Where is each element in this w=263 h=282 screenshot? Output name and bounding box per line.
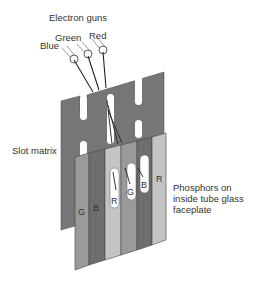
red-gun-label: Red (89, 30, 106, 41)
blue-gun-icon (70, 55, 78, 63)
stripe-letter-r2: R (156, 174, 163, 184)
green-gun-label: Green (55, 32, 81, 43)
crt-slot-mask-diagram: Electron guns Blue Green Red Slot matrix… (0, 0, 263, 282)
stripe-letter-b1: B (93, 203, 99, 213)
phosphor-label-line-1: Phosphors on (173, 182, 253, 193)
electron-guns-label: Electron guns (49, 12, 107, 23)
stripe-letter-b2: B (141, 180, 147, 190)
stripe-letter-g2: G (127, 187, 134, 197)
phosphor-label-line-2: inside tube glass (173, 193, 253, 204)
slot-matrix-label: Slot matrix (12, 145, 57, 156)
phosphor-label-line-3: faceplate (173, 204, 253, 215)
stripe-letter-r1: R (111, 196, 118, 206)
phosphor-label: Phosphors on inside tube glass faceplate (173, 182, 253, 215)
phosphor-faceplate (75, 133, 166, 270)
stripe-letter-g1: G (78, 207, 85, 217)
